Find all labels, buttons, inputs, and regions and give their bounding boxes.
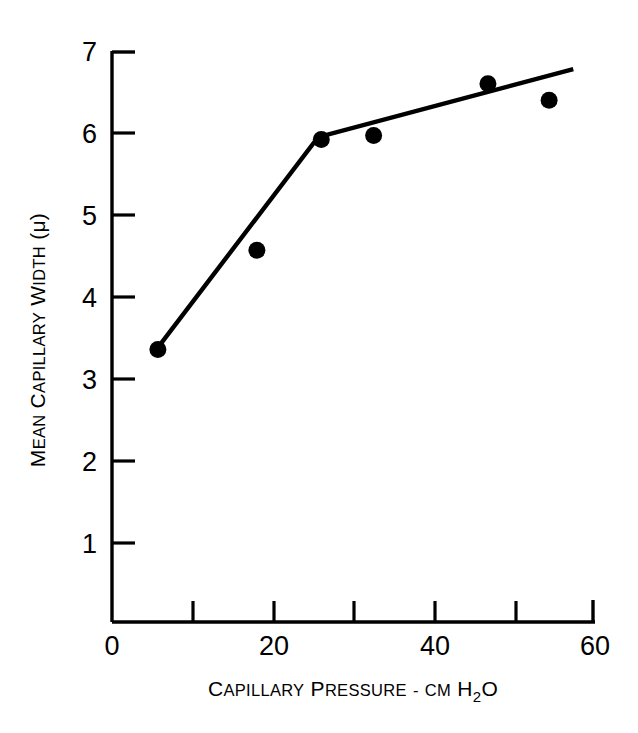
x-axis-title: CAPILLARY PRESSURE - CM H2O [208,677,498,705]
x-title-r1: APILLARY [223,681,304,699]
y-title-c2: C [26,393,49,408]
y-tick-label-5: 5 [82,201,97,231]
y-tick-label-7: 7 [82,37,97,67]
y-tick-label-2: 2 [82,447,97,477]
x-title-r2: RESSURE [325,681,407,699]
x-title-unit-prefix: CM [425,681,451,699]
y-axis-title: MEAN CAPILLARY WIDTH (μ) [26,213,49,467]
data-point-6 [541,92,558,109]
data-point-2 [248,242,265,259]
x-title-unit-subscript: 2 [473,688,482,705]
figure-container: 7 6 5 4 3 2 1 0 20 40 60 CAPI [0,0,638,733]
x-title-unit-h: H [457,677,472,700]
y-tick-label-1: 1 [82,529,97,559]
x-tick-label-60: 60 [580,631,610,661]
y-tick-label-6: 6 [82,119,97,149]
y-title-c3: W [26,286,49,306]
y-title-r3: IDTH [30,246,48,286]
x-tick-label-20: 20 [259,631,289,661]
x-title-unit-o: O [481,677,498,700]
x-axis-ticks [193,601,516,622]
y-tick-label-4: 4 [82,283,97,313]
x-axis-tick-labels: 0 20 40 60 [104,631,610,661]
x-tick-label-0: 0 [104,631,119,661]
x-tick-label-40: 40 [420,631,450,661]
y-title-c1: M [26,449,49,467]
capillary-scatter-chart: 7 6 5 4 3 2 1 0 20 40 60 CAPI [0,0,638,733]
data-point-5 [479,75,496,92]
y-title-unit: (μ) [26,213,49,240]
y-title-r1: EAN [30,415,48,450]
data-point-4 [365,127,382,144]
y-axis-tick-labels: 7 6 5 4 3 2 1 [82,37,97,559]
y-title-r2: APILLARY [30,312,48,393]
data-point-1 [149,341,166,358]
data-point-3 [313,131,330,148]
x-title-c1: C [208,677,223,700]
y-axis-ticks [112,133,135,543]
x-title-c2: P [311,677,325,700]
y-tick-label-3: 3 [82,365,97,395]
fitted-trend-line [157,69,573,349]
data-point-series [149,75,557,358]
